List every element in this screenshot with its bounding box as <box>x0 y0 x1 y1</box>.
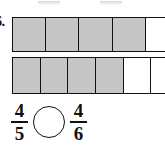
comparison-row: 4 5 4 6 <box>10 100 90 144</box>
fraction-bar-cell <box>146 18 165 51</box>
right-fraction-denominator: 6 <box>74 123 84 143</box>
left-fraction: 4 5 <box>10 101 29 143</box>
worksheet-problem: 6. 4 5 4 6 <box>0 0 165 146</box>
fraction-bar-cell <box>96 58 124 93</box>
fraction-bar-fifths <box>12 17 165 52</box>
page-bleed-smudge <box>100 1 122 5</box>
problem-number: 6. <box>0 14 9 30</box>
right-fraction: 4 6 <box>69 101 88 143</box>
fraction-bar-cell <box>46 18 79 51</box>
page-bleed-smudge <box>38 1 60 5</box>
left-fraction-numerator: 4 <box>15 101 25 121</box>
fraction-bar-cell <box>41 58 69 93</box>
fraction-bar-cell <box>124 58 152 93</box>
fraction-bar-cell <box>68 58 96 93</box>
fraction-bar-cell <box>113 18 146 51</box>
fraction-bar-cell <box>79 18 112 51</box>
fraction-bar-sixths <box>12 57 165 94</box>
fraction-bar-cell <box>151 58 165 93</box>
left-fraction-denominator: 5 <box>15 123 25 143</box>
fraction-bar-cell <box>13 58 41 93</box>
right-fraction-numerator: 4 <box>74 101 84 121</box>
comparison-operator-circle[interactable] <box>33 106 65 138</box>
fraction-bar-cell <box>13 18 46 51</box>
